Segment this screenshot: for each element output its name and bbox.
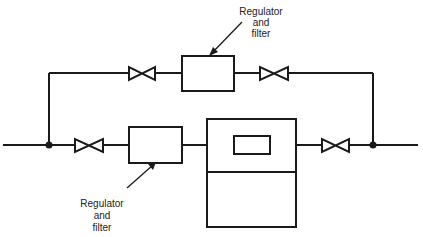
bypass-line bbox=[49, 73, 373, 145]
valve-bottom-left-icon bbox=[75, 139, 103, 152]
analyzer-display bbox=[234, 136, 270, 154]
flow-diagram: Regulator and filter Regulator and filte… bbox=[0, 0, 423, 237]
bottom-label-line-2: and bbox=[94, 210, 111, 221]
arrow-bottom-label bbox=[127, 162, 156, 188]
top-label-line-2: and bbox=[253, 17, 270, 28]
junction-right bbox=[370, 142, 377, 149]
regulator-filter-bottom bbox=[129, 127, 182, 163]
top-label-line-3: filter bbox=[252, 28, 272, 39]
top-label-line-1: Regulator bbox=[239, 6, 283, 17]
arrow-top-label bbox=[209, 22, 242, 56]
bottom-label-line-3: filter bbox=[93, 222, 113, 233]
valve-bottom-right-icon bbox=[322, 139, 349, 152]
analyzer bbox=[207, 119, 296, 227]
regulator-filter-top bbox=[182, 56, 234, 91]
valve-top-right-icon bbox=[260, 67, 288, 80]
bottom-label-line-1: Regulator bbox=[80, 198, 124, 209]
junction-left bbox=[46, 142, 53, 149]
valve-top-left-icon bbox=[129, 67, 155, 80]
